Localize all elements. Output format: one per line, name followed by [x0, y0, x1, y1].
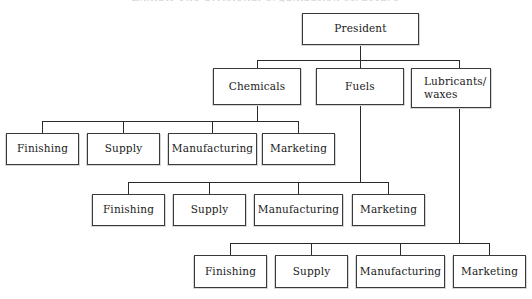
node-chemicals-marketing[interactable]: Marketing: [262, 133, 335, 165]
node-division-lubricants-line1: Lubricants/: [424, 75, 487, 87]
connector-division-bus: [257, 60, 460, 61]
node-lubricants-supply[interactable]: Supply: [275, 255, 348, 288]
node-fuels-manufacturing-label: Manufacturing: [255, 203, 342, 216]
connector-bus-to-fuels: [360, 60, 361, 68]
node-fuels-marketing-label: Marketing: [357, 203, 420, 216]
node-fuels-manufacturing[interactable]: Manufacturing: [254, 194, 343, 226]
node-chemicals-finishing[interactable]: Finishing: [6, 133, 79, 165]
node-fuels-marketing[interactable]: Marketing: [352, 194, 425, 226]
node-division-chemicals[interactable]: Chemicals: [213, 68, 301, 105]
connector-bus-to-lubricants: [459, 60, 460, 68]
connector-lubricants-child-4: [489, 243, 490, 255]
org-chart-canvas: Exhibit The divisional organization stru…: [0, 0, 532, 299]
chart-title-remnant: Exhibit The divisional organization stru…: [0, 0, 532, 2]
node-president[interactable]: President: [302, 13, 419, 45]
node-chemicals-finishing-label: Finishing: [14, 142, 71, 155]
connector-chemicals-child-3: [212, 121, 213, 133]
node-lubricants-marketing[interactable]: Marketing: [453, 255, 526, 288]
node-lubricants-marketing-label: Marketing: [458, 265, 521, 278]
connector-fuels-child-2: [209, 182, 210, 194]
connector-chemicals-child-4: [298, 121, 299, 133]
connector-lubricants-child-3: [400, 243, 401, 255]
connector-fuels-child-4: [388, 182, 389, 194]
node-chemicals-manufacturing[interactable]: Manufacturing: [168, 133, 257, 165]
connector-fuels-down: [360, 105, 361, 182]
node-lubricants-manufacturing[interactable]: Manufacturing: [356, 255, 445, 288]
connector-chemicals-child-1: [42, 121, 43, 133]
connector-fuels-child-3: [298, 182, 299, 194]
node-chemicals-manufacturing-label: Manufacturing: [169, 142, 256, 155]
connector-president-down: [360, 45, 361, 60]
node-lubricants-manufacturing-label: Manufacturing: [357, 265, 444, 278]
node-lubricants-finishing-label: Finishing: [202, 265, 259, 278]
connector-fuels-function-bus: [128, 182, 388, 183]
node-division-lubricants[interactable]: Lubricants/ waxes: [411, 68, 491, 108]
node-lubricants-supply-label: Supply: [290, 265, 334, 278]
node-fuels-supply-label: Supply: [188, 203, 232, 216]
node-division-lubricants-label: Lubricants/ waxes: [412, 75, 490, 101]
node-division-fuels[interactable]: Fuels: [316, 68, 404, 105]
node-division-chemicals-label: Chemicals: [226, 80, 289, 93]
connector-chemicals-function-bus: [42, 121, 298, 122]
node-fuels-finishing[interactable]: Finishing: [92, 194, 165, 226]
connector-chemicals-child-2: [123, 121, 124, 133]
connector-lubricants-child-1: [230, 243, 231, 255]
node-chemicals-supply-label: Supply: [102, 142, 146, 155]
node-lubricants-finishing[interactable]: Finishing: [194, 255, 267, 288]
node-fuels-supply[interactable]: Supply: [173, 194, 246, 226]
connector-lubricants-child-2: [311, 243, 312, 255]
node-division-lubricants-line2: waxes: [424, 88, 487, 101]
node-division-fuels-label: Fuels: [342, 80, 378, 93]
node-chemicals-supply[interactable]: Supply: [87, 133, 160, 165]
node-president-label: President: [331, 22, 389, 35]
connector-lubricants-function-bus: [230, 243, 489, 244]
node-chemicals-marketing-label: Marketing: [267, 142, 330, 155]
connector-chemicals-down: [257, 105, 258, 121]
connector-fuels-child-1: [128, 182, 129, 194]
node-fuels-finishing-label: Finishing: [100, 203, 157, 216]
connector-lubricants-down: [459, 108, 460, 243]
connector-bus-to-chemicals: [257, 60, 258, 68]
